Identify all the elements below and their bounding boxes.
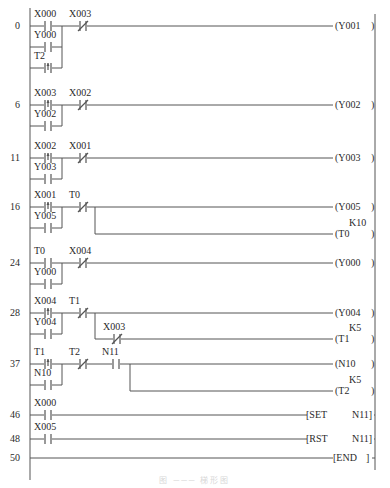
step-number: 0 bbox=[0, 21, 20, 31]
ladder-diagram bbox=[0, 0, 390, 488]
contact-no-icon bbox=[45, 434, 51, 444]
contact-label: X002 bbox=[69, 88, 91, 98]
step-number: 48 bbox=[0, 434, 20, 444]
output-coil: (Y002 bbox=[335, 100, 361, 110]
contact-nc-icon bbox=[78, 100, 88, 110]
contact-nc-icon bbox=[78, 153, 88, 163]
contact-label: Y002 bbox=[34, 109, 56, 119]
contact-label: T1 bbox=[34, 347, 45, 357]
step-number: 6 bbox=[0, 100, 20, 110]
contact-no-icon bbox=[45, 279, 51, 289]
contact-label: T0 bbox=[34, 246, 45, 256]
contact-label: X001 bbox=[69, 141, 91, 151]
contact-label: X003 bbox=[69, 9, 91, 19]
contact-no-icon bbox=[45, 329, 51, 339]
step-number: 46 bbox=[0, 410, 20, 420]
instruction: [SET bbox=[306, 410, 327, 420]
step-number: 16 bbox=[0, 202, 20, 212]
contact-label: T2 bbox=[34, 51, 45, 61]
step-number: 11 bbox=[0, 153, 20, 163]
contact-label: X005 bbox=[34, 422, 56, 432]
contact-no-icon bbox=[113, 359, 119, 369]
contact-label: T0 bbox=[69, 190, 80, 200]
contact-label: X004 bbox=[69, 246, 91, 256]
coil-close: ) bbox=[371, 308, 374, 318]
contact-label: Y000 bbox=[34, 267, 56, 277]
contact-label: N10 bbox=[34, 368, 51, 378]
instruction-operand: N11] bbox=[352, 434, 372, 444]
contact-no-icon bbox=[45, 223, 51, 233]
contact-label: N11 bbox=[102, 347, 119, 357]
contact-label: X003 bbox=[103, 322, 125, 332]
output-coil: (T2 bbox=[335, 386, 349, 396]
output-coil: (T0 bbox=[335, 229, 349, 239]
coil-close: ) bbox=[371, 229, 374, 239]
output-coil: (Y004 bbox=[335, 308, 361, 318]
contact-nc-icon bbox=[78, 258, 88, 268]
timer-setting: K10 bbox=[349, 218, 366, 228]
instruction: [END bbox=[333, 453, 357, 463]
contact-nc-icon bbox=[78, 21, 88, 31]
figure-caption: 图 ─── 梯形图 bbox=[0, 474, 390, 485]
instruction: [RST bbox=[306, 434, 328, 444]
coil-close: ) bbox=[371, 359, 374, 369]
coil-close: ) bbox=[371, 334, 374, 344]
coil-close: ) bbox=[371, 258, 374, 268]
contact-label: T2 bbox=[69, 347, 80, 357]
timer-setting: K5 bbox=[349, 375, 361, 385]
contact-no-icon bbox=[45, 121, 51, 131]
timer-setting: K5 bbox=[349, 323, 361, 333]
contact-label: X003 bbox=[34, 88, 56, 98]
output-coil: (Y005 bbox=[335, 202, 361, 212]
contact-label: Y004 bbox=[34, 317, 56, 327]
contact-no-icon bbox=[45, 410, 51, 420]
step-number: 50 bbox=[0, 453, 20, 463]
contact-label: X002 bbox=[34, 141, 56, 151]
coil-close: ) bbox=[371, 100, 374, 110]
contact-label: X000 bbox=[34, 398, 56, 408]
contact-nc-icon bbox=[78, 202, 88, 212]
output-coil: (Y001 bbox=[335, 21, 361, 31]
coil-close: ) bbox=[371, 202, 374, 212]
contact-no-icon bbox=[45, 42, 51, 52]
coil-close: ) bbox=[371, 153, 374, 163]
contact-label: Y003 bbox=[34, 162, 56, 172]
contact-p-icon bbox=[45, 63, 51, 73]
instruction-operand: ] bbox=[366, 453, 369, 463]
contact-label: Y000 bbox=[34, 30, 56, 40]
coil-close: ) bbox=[371, 386, 374, 396]
contact-no-icon bbox=[45, 174, 51, 184]
output-coil: (Y000 bbox=[335, 258, 361, 268]
contact-nc-icon bbox=[78, 308, 88, 318]
output-coil: (T1 bbox=[335, 334, 349, 344]
contact-nc-icon bbox=[112, 334, 122, 344]
contact-nc-icon bbox=[78, 359, 88, 369]
contact-label: X001 bbox=[34, 190, 56, 200]
output-coil: (N10 bbox=[335, 359, 356, 369]
contact-no-icon bbox=[45, 380, 51, 390]
step-number: 28 bbox=[0, 308, 20, 318]
output-coil: (Y003 bbox=[335, 153, 361, 163]
contact-label: X000 bbox=[34, 9, 56, 19]
step-number: 37 bbox=[0, 359, 20, 369]
step-number: 24 bbox=[0, 258, 20, 268]
contact-label: T1 bbox=[69, 296, 80, 306]
contact-label: Y005 bbox=[34, 211, 56, 221]
contact-label: X004 bbox=[34, 296, 56, 306]
instruction-operand: N11] bbox=[352, 410, 372, 420]
coil-close: ) bbox=[371, 21, 374, 31]
